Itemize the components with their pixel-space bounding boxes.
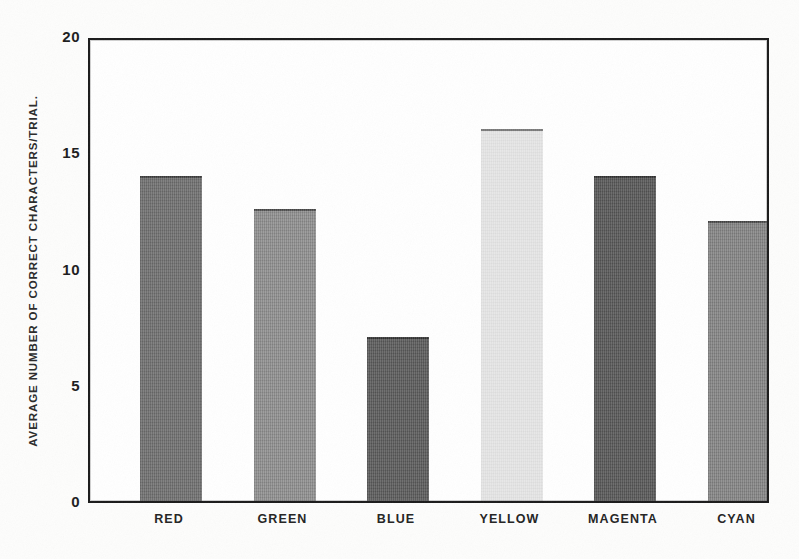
- bar-texture: [367, 337, 429, 501]
- bar-texture: [140, 176, 202, 502]
- bar-blue: [367, 337, 429, 501]
- x-axis-label-cyan: CYAN: [667, 512, 799, 526]
- bar-yellow: [481, 129, 543, 501]
- bar-red: [140, 176, 202, 502]
- y-tick-label: 10: [40, 261, 80, 278]
- bar-cyan: [708, 221, 770, 501]
- bar-texture: [254, 209, 316, 501]
- bar-texture: [594, 176, 656, 502]
- bar-texture: [708, 221, 770, 501]
- bar-green: [254, 209, 316, 501]
- bar-chart-figure: AVERAGE NUMBER OF CORRECT CHARACTERS/TRI…: [0, 0, 799, 559]
- y-tick-label: 0: [40, 493, 80, 510]
- y-tick-label: 5: [40, 377, 80, 394]
- y-tick-label: 15: [40, 144, 80, 161]
- plot-area: [88, 38, 769, 503]
- y-axis-title: AVERAGE NUMBER OF CORRECT CHARACTERS/TRI…: [27, 95, 39, 447]
- y-tick-label: 20: [40, 28, 80, 45]
- bar-texture: [481, 129, 543, 501]
- bar-magenta: [594, 176, 656, 502]
